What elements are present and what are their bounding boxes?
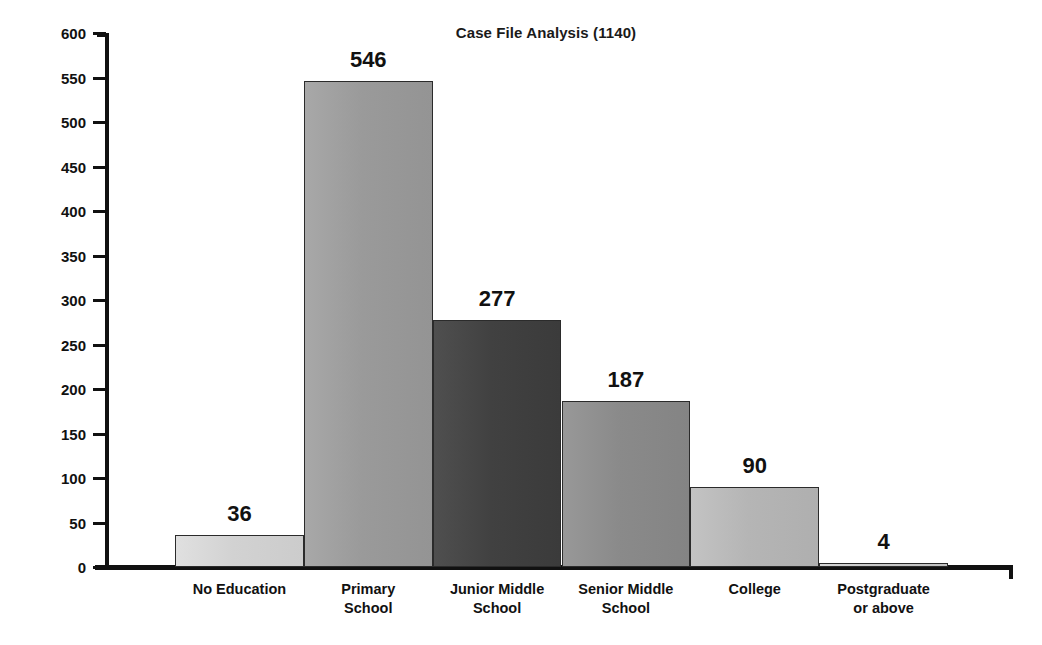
- y-tick-mark: [93, 32, 106, 35]
- y-tick-label: 400: [0, 203, 86, 220]
- y-tick-mark: [93, 210, 106, 213]
- bar-value-label: 90: [743, 453, 767, 479]
- y-tick-label: 50: [0, 514, 86, 531]
- bar-value-label: 277: [479, 286, 516, 312]
- bar: [819, 563, 948, 567]
- y-tick-mark: [93, 255, 106, 258]
- y-tick-label: 600: [0, 25, 86, 42]
- bar-value-label: 187: [608, 367, 645, 393]
- y-tick-label: 450: [0, 158, 86, 175]
- y-tick-mark: [93, 344, 106, 347]
- y-tick-mark: [93, 388, 106, 391]
- y-tick-label: 0: [0, 559, 86, 576]
- y-tick-mark: [93, 166, 106, 169]
- bar: [562, 401, 691, 567]
- bar-value-label: 4: [877, 529, 889, 555]
- x-axis-category-label: Postgraduate or above: [796, 580, 971, 618]
- chart-title: Case File Analysis (1140): [0, 24, 1042, 41]
- y-tick-label: 200: [0, 381, 86, 398]
- chart-figure: Case File Analysis (1140) No. of cases 0…: [0, 0, 1042, 645]
- y-tick-label: 100: [0, 470, 86, 487]
- y-tick-label: 300: [0, 292, 86, 309]
- y-tick-label: 250: [0, 336, 86, 353]
- y-tick-mark: [93, 522, 106, 525]
- y-tick-mark: [93, 121, 106, 124]
- y-tick-mark: [93, 433, 106, 436]
- y-tick-mark: [93, 566, 106, 569]
- y-tick-label: 150: [0, 425, 86, 442]
- x-axis-end-cap: [1009, 565, 1013, 579]
- bar: [690, 487, 819, 567]
- bar-value-label: 36: [227, 501, 251, 527]
- y-tick-label: 500: [0, 114, 86, 131]
- y-tick-mark: [93, 299, 106, 302]
- bar: [175, 535, 304, 567]
- y-tick-label: 550: [0, 69, 86, 86]
- y-tick-mark: [93, 477, 106, 480]
- y-tick-mark: [93, 77, 106, 80]
- bar-value-label: 546: [350, 47, 387, 73]
- y-tick-label: 350: [0, 247, 86, 264]
- bar: [433, 320, 562, 567]
- bar: [304, 81, 433, 567]
